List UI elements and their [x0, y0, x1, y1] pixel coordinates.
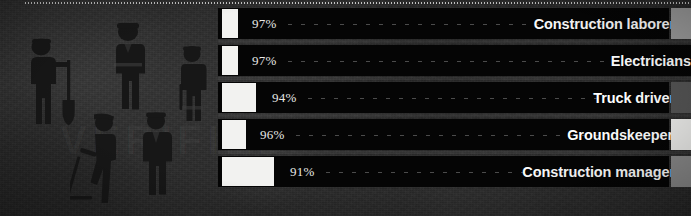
bar-lead-block [222, 9, 238, 38]
bar-lead-block [222, 46, 238, 75]
table-row[interactable]: 97% Construction laborers [218, 8, 691, 39]
bar-value: 96% [260, 126, 284, 142]
bar-label: Groundskeepers [567, 127, 681, 143]
bar-label: Truck drivers [593, 90, 683, 106]
table-row[interactable]: 97% Electricians [218, 45, 691, 76]
table-row[interactable]: 96% Groundskeepers [218, 119, 691, 150]
bar-label: Electricians [611, 53, 691, 69]
bar-label: Construction managers [522, 164, 683, 180]
bar-value: 91% [290, 163, 314, 179]
leader-dots [288, 61, 608, 62]
bar-value: 94% [272, 89, 296, 105]
bar-endcap [671, 156, 691, 187]
row-seam [218, 40, 691, 43]
worker-raking-icon [70, 112, 132, 204]
bar-label: Construction laborers [534, 16, 683, 32]
bar-value: 97% [252, 15, 276, 31]
table-row[interactable]: 94% Truck drivers [218, 82, 691, 113]
row-seam [218, 114, 691, 117]
infographic-root: VERIFIED [0, 0, 691, 216]
bar-endcap [671, 8, 691, 39]
bar-endcap [671, 119, 691, 150]
worker-safety-vest-icon [100, 20, 156, 112]
leader-dots [296, 135, 601, 136]
bar-lead-block [222, 120, 246, 149]
pictogram-panel [0, 0, 215, 216]
row-seam [218, 151, 691, 154]
table-row[interactable]: 91% Construction managers [218, 156, 691, 187]
leader-dots [308, 98, 608, 99]
row-seam [218, 77, 691, 80]
bar-chart: 97% Construction laborers 97% Electricia… [218, 8, 691, 210]
bar-endcap [671, 82, 691, 113]
bar-value: 97% [252, 52, 276, 68]
manager-in-suit-icon [130, 110, 182, 196]
bar-lead-block [222, 83, 256, 112]
bar-lead-block [222, 157, 274, 186]
